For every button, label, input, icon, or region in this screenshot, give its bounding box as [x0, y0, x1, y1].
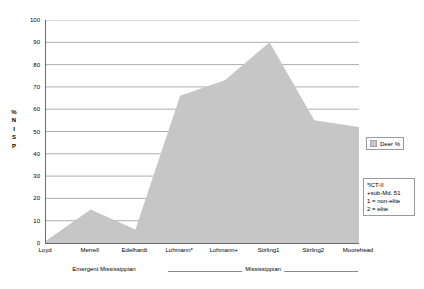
period-band-label: Mississippian: [242, 266, 284, 272]
period-band-label: Emergent Mississippian: [69, 266, 138, 272]
x-tick-label: Stirling2: [302, 247, 324, 253]
y-tick-label: 30: [33, 173, 40, 179]
annotation-note-box: *lCT-II +sub-Md. 51 1 = non-elite 2 = el…: [363, 178, 415, 216]
x-tick-label: Stirling1: [258, 247, 280, 253]
y-tick-label: 100: [30, 17, 40, 23]
period-band-emergent: Emergent Mississippian: [46, 266, 162, 278]
y-tick-label: 50: [33, 129, 40, 135]
y-axis-ticks: 0102030405060708090100: [20, 0, 42, 289]
series-layer: [46, 42, 359, 243]
legend-label-deer: Deer %: [380, 141, 400, 147]
plot-svg: [46, 20, 359, 243]
x-tick-label: Loyd: [38, 247, 51, 253]
y-tick-label: 20: [33, 195, 40, 201]
x-tick-label: Lohmann*: [165, 247, 192, 253]
y-axis-title-letter: I: [8, 125, 20, 133]
chart-legend[interactable]: Deer %: [366, 137, 404, 150]
period-band-mississippian: Mississippian: [168, 266, 358, 278]
y-tick-label: 40: [33, 151, 40, 157]
y-tick-label: 90: [33, 39, 40, 45]
legend-swatch-deer: [370, 140, 377, 147]
x-tick-label: Moorehead: [343, 247, 373, 253]
y-axis-title-letter: S: [8, 133, 20, 141]
x-tick-label: Edelhardt: [122, 247, 148, 253]
x-tick-label: Merrell: [81, 247, 99, 253]
plot-area: [45, 20, 359, 244]
y-axis-title-letter: N: [8, 116, 20, 124]
annotation-line: +sub-Md. 51: [367, 189, 411, 197]
x-tick-label: Lohmann+: [210, 247, 239, 253]
y-tick-label: 70: [33, 84, 40, 90]
y-axis-title-letter: %: [8, 108, 20, 116]
y-axis-title: % N I S P: [8, 108, 20, 150]
y-tick-label: 60: [33, 106, 40, 112]
annotation-line: 2 = elite: [367, 205, 411, 213]
y-tick-label: 80: [33, 62, 40, 68]
x-axis-ticks: LoydMerrellEdelhardtLohmann*Lohmann+Stir…: [45, 247, 358, 261]
y-axis-title-letter: P: [8, 142, 20, 150]
annotation-line: 1 = non-elite: [367, 197, 411, 205]
y-tick-label: 10: [33, 218, 40, 224]
chart-container: % N I S P 0102030405060708090100 LoydMer…: [0, 0, 424, 289]
annotation-line: *lCT-II: [367, 181, 411, 189]
y-tick-label: 0: [37, 240, 40, 246]
area-series-deer-: [46, 42, 359, 243]
